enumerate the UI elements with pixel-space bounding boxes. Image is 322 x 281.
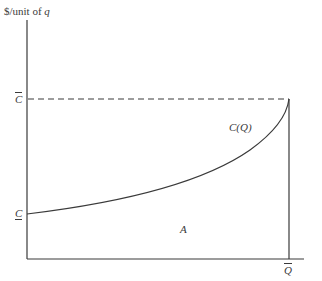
curve-label: C(Q) [229, 122, 252, 133]
c-underbar-label: C [15, 208, 22, 219]
y-axis-label-var: q [44, 5, 50, 17]
c-bar-text: C [15, 94, 22, 105]
q-bar-label: Q [284, 265, 292, 276]
c-underbar-text: C [15, 208, 22, 219]
q-bar-text: Q [284, 265, 292, 276]
c-bar-label: C [15, 94, 22, 105]
cost-curve [27, 99, 289, 214]
area-label: A [180, 224, 187, 235]
y-axis-label-text: $/unit of [4, 5, 44, 17]
y-axis-label: $/unit of q [4, 6, 50, 17]
diagram-canvas [0, 0, 322, 281]
